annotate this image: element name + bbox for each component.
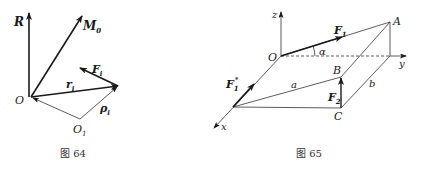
label-b: b	[369, 78, 375, 89]
label-C: C	[334, 110, 343, 123]
label-R: R	[13, 15, 24, 29]
label-B: B	[332, 64, 341, 77]
label-F2: F2	[327, 91, 341, 106]
edge-b	[341, 56, 390, 108]
edge-a	[233, 77, 341, 107]
edge-DC	[233, 107, 341, 108]
angle-alpha-arc	[313, 46, 315, 56]
vector-O1-O	[33, 98, 80, 119]
vector-rhoi	[80, 87, 117, 119]
label-alpha: α	[319, 46, 326, 57]
vector-ri	[31, 86, 118, 97]
figure-65: z O A y α F1 B a b F2 C F1* x 图 65	[214, 9, 406, 159]
label-ri: ri	[66, 78, 75, 93]
label-A: A	[392, 15, 401, 28]
caption-figure-64: 图 64	[60, 148, 86, 159]
caption-figure-65: 图 65	[296, 148, 322, 159]
label-F1: F1	[333, 24, 347, 39]
figure-64: R M0 ri Fi O ρi O1 图 64	[13, 13, 118, 159]
label-O: O	[15, 94, 24, 107]
vector-F1	[281, 37, 342, 56]
label-z: z	[271, 9, 278, 20]
label-a: a	[291, 79, 297, 90]
label-O1: O1	[73, 123, 87, 138]
figures-canvas: R M0 ri Fi O ρi O1 图 64	[0, 0, 425, 175]
label-O: O	[268, 51, 277, 64]
label-x: x	[221, 121, 227, 132]
label-Fi: Fi	[91, 63, 103, 78]
edge-AB	[341, 22, 390, 77]
label-y: y	[398, 58, 405, 69]
label-M0: M0	[82, 19, 101, 35]
label-rhoi: ρi	[99, 102, 110, 117]
label-F1-star: F1*	[225, 75, 239, 93]
